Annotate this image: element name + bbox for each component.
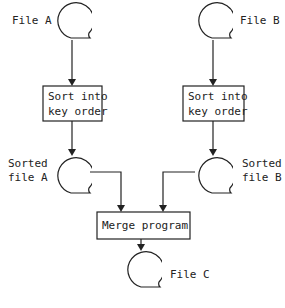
- arrowhead-icon: [68, 149, 76, 156]
- sort-b-label-line2: key order: [188, 105, 248, 118]
- sorted-file-a-label-line1: Sorted: [8, 157, 48, 170]
- edge-sorted-b-to-merge: [163, 172, 195, 206]
- sorted-file-a-storage-icon: [58, 158, 94, 193]
- edge-sorted-a-to-merge: [90, 172, 121, 206]
- sort-a-process: Sort into key order: [43, 86, 108, 121]
- sorted-file-b-label-line1: Sorted: [242, 157, 282, 170]
- merge-process: Merge program: [97, 212, 190, 239]
- file-c-label: File C: [170, 268, 210, 281]
- file-c-node: File C: [128, 252, 210, 287]
- sorted-file-b-node: Sorted file B: [199, 157, 282, 193]
- sorted-file-b-storage-icon: [199, 158, 235, 193]
- sorted-file-b-label-line2: file B: [242, 171, 282, 184]
- sort-a-label-line2: key order: [48, 105, 108, 118]
- sort-b-process: Sort into key order: [183, 86, 248, 121]
- merge-label: Merge program: [102, 219, 188, 232]
- sort-a-label-line1: Sort into: [48, 90, 108, 103]
- arrowhead-icon: [137, 244, 145, 251]
- file-c-storage-icon: [128, 252, 164, 287]
- file-a-label: File A: [12, 14, 52, 27]
- merge-flowchart: File A Sort into key order Sorted file A…: [0, 0, 285, 308]
- arrowhead-icon: [209, 79, 217, 86]
- file-b-label: File B: [240, 14, 280, 27]
- arrowhead-icon: [68, 79, 76, 86]
- file-a-storage-icon: [58, 3, 94, 38]
- arrowhead-icon: [117, 205, 125, 212]
- arrowhead-icon: [209, 149, 217, 156]
- arrowhead-icon: [159, 205, 167, 212]
- file-a-node: File A: [12, 3, 94, 38]
- sorted-file-a-node: Sorted file A: [8, 157, 94, 193]
- sorted-file-a-label-line2: file A: [8, 171, 48, 184]
- sort-b-label-line1: Sort into: [188, 90, 248, 103]
- file-b-node: File B: [199, 3, 280, 38]
- file-b-storage-icon: [199, 3, 235, 38]
